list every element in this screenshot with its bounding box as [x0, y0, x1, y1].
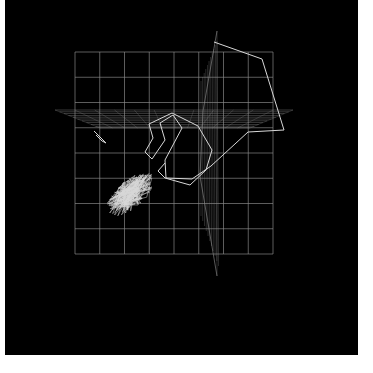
dense-cluster-path [108, 174, 152, 216]
vertical-plane-line [212, 53, 213, 251]
vertical-plane-line [209, 61, 210, 241]
vertical-plane-line [214, 49, 215, 256]
vertical-plane-line [207, 65, 208, 236]
plot-canvas [5, 0, 358, 355]
3d-trajectory-plot [5, 0, 358, 355]
